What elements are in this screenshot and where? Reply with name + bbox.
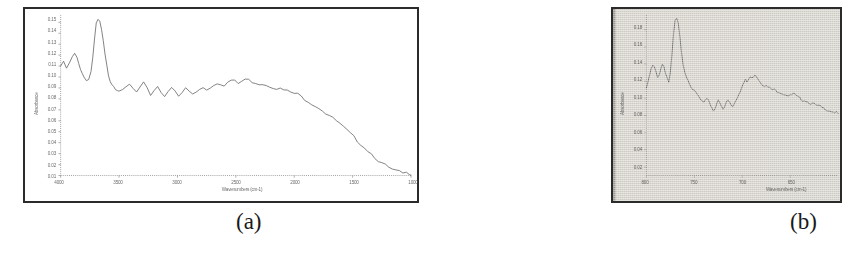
- chart-b-plot: [613, 9, 840, 201]
- x-tick-label: 3000: [168, 181, 186, 186]
- x-tick-label: 2000: [286, 181, 304, 186]
- y-tick-label: 0.12: [42, 52, 56, 57]
- spectrum-trace: [61, 19, 411, 175]
- caption-b: (b): [790, 210, 817, 233]
- y-tick-label: 0.07: [42, 108, 56, 113]
- y-tick-label: 0.01: [42, 175, 56, 180]
- y-tick-label: 0.10: [628, 96, 642, 101]
- y-tick-label: 0.08: [42, 96, 56, 101]
- figure-page: (a) (b) 0.150.140.130.120.110.100.090.08…: [0, 0, 842, 256]
- chart-a-plot: [25, 9, 417, 201]
- x-tick-label: 750: [685, 181, 703, 186]
- y-tick-label: 0.18: [628, 26, 642, 31]
- y-tick-label: 0.06: [42, 119, 56, 124]
- x-tick-label: 4000: [50, 181, 68, 186]
- y-tick-label: 0.10: [42, 74, 56, 79]
- y-tick-label: 0.03: [42, 152, 56, 157]
- y-tick-label: 0.06: [628, 131, 642, 136]
- y-tick-label: 0.09: [42, 85, 56, 90]
- chart-panel-a: [23, 7, 419, 203]
- y-tick-label: 0.11: [42, 63, 56, 68]
- x-tick-label: 1500: [345, 181, 363, 186]
- x-tick-label: 800: [636, 181, 654, 186]
- y-tick-label: 0.04: [628, 148, 642, 153]
- spectrum-trace: [646, 18, 838, 113]
- caption-a: (a): [236, 210, 262, 233]
- x-tick-label: 3500: [109, 181, 127, 186]
- x-tick-label: 2500: [227, 181, 245, 186]
- y-tick-label: 0.05: [42, 130, 56, 135]
- x-tick-label: 650: [782, 181, 800, 186]
- y-tick-label: 0.02: [628, 166, 642, 171]
- y-tick-label: 0.08: [628, 113, 642, 118]
- y-tick-label: 0.14: [42, 29, 56, 34]
- y-tick-label: 0.16: [628, 43, 642, 48]
- chart-panel-b: [611, 7, 842, 203]
- x-axis-title: Wavenumbers (cm-1): [766, 188, 806, 193]
- y-axis-title: Absorbance: [35, 93, 40, 116]
- y-tick-label: 0.04: [42, 141, 56, 146]
- x-tick-label: 1000: [404, 181, 422, 186]
- y-tick-label: 0.15: [42, 18, 56, 23]
- y-tick-label: 0.02: [42, 164, 56, 169]
- x-tick-label: 700: [734, 181, 752, 186]
- x-axis-title: Wavenumbers (cm-1): [222, 188, 262, 193]
- y-axis-title: Absorbance: [621, 93, 626, 116]
- y-tick-label: 0.14: [628, 61, 642, 66]
- chart-a-frame: [23, 7, 419, 203]
- y-tick-label: 0.13: [42, 41, 56, 46]
- y-tick-label: 0.12: [628, 78, 642, 83]
- chart-b-frame: [611, 7, 842, 203]
